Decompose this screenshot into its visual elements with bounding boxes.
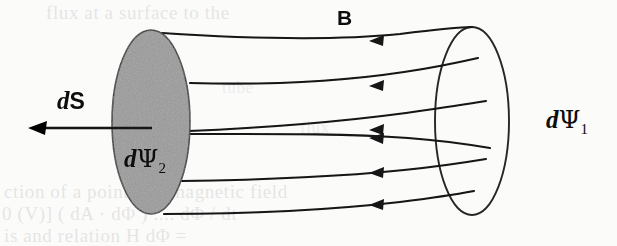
near-flux-subscript: 2 [158, 160, 166, 176]
surface-element-d-glyph: d [57, 87, 70, 114]
field-arrowhead-2 [369, 80, 384, 91]
far-flux-label: dΨ1 [546, 105, 588, 138]
field-arrowhead-5 [369, 167, 384, 178]
flux-tube-figure: flux at a surface to the tube flux ction… [0, 0, 617, 246]
field-line-3 [189, 101, 486, 131]
near-flux-psi-glyph: Ψ [137, 144, 159, 173]
flux-tube-drawing [0, 0, 617, 246]
surface-element-label: dS [57, 87, 85, 115]
far-flux-psi-glyph: Ψ [559, 105, 581, 134]
field-arrowhead-3 [369, 124, 384, 135]
near-flux-d-glyph: d [124, 145, 137, 172]
field-line-1 [162, 27, 472, 38]
field-line-6 [164, 191, 474, 214]
field-line-group [162, 27, 490, 214]
near-flux-label: dΨ2 [124, 144, 166, 177]
surface-element-s-glyph: S [70, 88, 85, 114]
far-flux-subscript: 1 [580, 121, 588, 137]
magnetic-field-label: B [337, 6, 352, 30]
field-arrowhead-group [369, 35, 384, 210]
far-flux-d-glyph: d [546, 106, 559, 133]
field-arrowhead-6 [369, 199, 384, 210]
field-arrowhead-4 [369, 133, 384, 144]
near-cap-ellipse [112, 30, 190, 214]
field-line-2 [190, 58, 478, 84]
field-line-4 [187, 134, 490, 148]
far-cap-ellipse [435, 27, 509, 215]
ds-arrowhead [28, 121, 47, 135]
